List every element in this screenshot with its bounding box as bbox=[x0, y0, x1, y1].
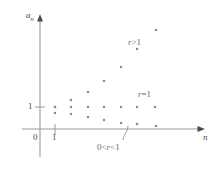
data-point bbox=[155, 29, 157, 31]
y-axis-tick-label-1: 1 bbox=[28, 102, 33, 111]
x-axis bbox=[22, 124, 205, 135]
data-point bbox=[87, 106, 89, 108]
brace-pointer-icon bbox=[123, 126, 128, 140]
data-point bbox=[70, 113, 72, 115]
data-point bbox=[54, 112, 56, 114]
x-axis-tick-label-1: 1 bbox=[52, 133, 57, 142]
x-axis-label: n bbox=[203, 133, 208, 142]
data-point bbox=[70, 106, 72, 108]
data-point bbox=[136, 123, 138, 125]
region-label-r-equals-1: r=1 bbox=[138, 90, 151, 99]
data-point bbox=[70, 99, 72, 101]
data-point bbox=[120, 122, 122, 124]
data-point bbox=[87, 116, 89, 118]
region-2-value: 1 bbox=[115, 142, 120, 152]
data-point bbox=[54, 106, 56, 108]
region-label-r-greater-than-1: r>1 bbox=[128, 38, 141, 47]
region-1-value: 1 bbox=[147, 89, 152, 99]
region-label-r-between-0-and-1: 0<r<1 bbox=[97, 143, 120, 152]
data-point bbox=[120, 66, 122, 68]
geometric-sequence-figure: an n 1 0 1 r>1 r=1 0<r<1 bbox=[0, 0, 217, 170]
data-point bbox=[103, 119, 105, 121]
region-0-value: 1 bbox=[137, 37, 142, 47]
data-point bbox=[154, 106, 156, 108]
origin-label: 0 bbox=[33, 133, 38, 142]
y-axis-label-subscript: n bbox=[31, 15, 34, 22]
data-point bbox=[155, 125, 157, 127]
data-point bbox=[136, 48, 138, 50]
data-point bbox=[136, 106, 138, 108]
data-point bbox=[103, 80, 105, 82]
y-axis-label: an bbox=[26, 11, 34, 22]
data-point bbox=[103, 106, 105, 108]
y-axis-arrowhead bbox=[37, 14, 43, 22]
scatter-points-layer bbox=[54, 29, 157, 127]
brace-pointer-path bbox=[123, 126, 128, 140]
data-point bbox=[120, 106, 122, 108]
data-point bbox=[87, 91, 89, 93]
